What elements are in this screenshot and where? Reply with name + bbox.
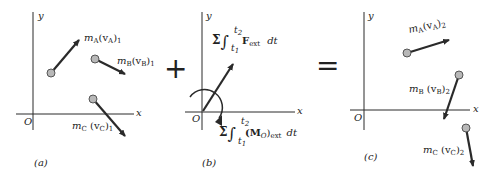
equals-operator: = xyxy=(316,52,339,80)
state-index: 2 xyxy=(460,149,464,157)
lower-limit: t1 xyxy=(238,137,246,148)
panel-c-momentum-A-arrow xyxy=(403,40,449,57)
upper-limit: t2 xyxy=(234,26,242,37)
panel-a-label-momentum-B: mB(vB)1 xyxy=(117,56,155,68)
moment-symbol: (M xyxy=(245,127,261,138)
panel-c-label-momentum-C: mC (vC)2 xyxy=(423,145,464,157)
panel-a-caption: (a) xyxy=(34,158,48,168)
panel-b-linear-impulse-label: Σ∫t2t1 Fext dt xyxy=(212,34,278,50)
panel-b-y-axis-label: y xyxy=(206,11,212,21)
dt-symbol: dt xyxy=(267,35,277,46)
dt-symbol: dt xyxy=(287,127,297,138)
panel-a-label-momentum-A: mA(vA)1 xyxy=(84,33,122,45)
lower-limit-sub: 1 xyxy=(242,140,246,148)
integral-symbol: ∫ xyxy=(220,32,228,51)
velocity-symbol: (v xyxy=(87,120,100,131)
upper-limit-sub: 2 xyxy=(238,29,242,37)
panel-b-angular-impulse-label: Σ∫t2t1 (MO)ext dt xyxy=(219,126,297,142)
panel-a-x-axis-label: x xyxy=(136,108,142,118)
velocity-symbol: (v xyxy=(99,32,109,43)
state-index: 1 xyxy=(109,125,113,133)
force-subscript: ext xyxy=(249,40,260,48)
velocity-symbol: (v xyxy=(438,144,451,155)
velocity-symbol: (v xyxy=(132,55,142,66)
panel-c-x-axis-label: x xyxy=(473,104,479,114)
lower-limit-sub: 1 xyxy=(235,47,239,55)
panel-a-momentum-A-arrow xyxy=(47,40,79,77)
velocity-symbol: (v xyxy=(424,83,437,94)
panel-b-x-axis-label: x xyxy=(297,106,303,116)
panel-b-linear-impulse-arrow xyxy=(203,64,233,111)
state-index: 2 xyxy=(445,88,449,96)
panel-b-origin-label: O xyxy=(192,114,200,124)
plus-operator: + xyxy=(164,55,187,83)
panel-a-label-momentum-C: mC (vC)1 xyxy=(72,121,113,133)
ext-subscript: ext xyxy=(270,132,281,140)
panel-b-caption: (b) xyxy=(202,158,216,168)
upper-limit: t2 xyxy=(241,117,249,128)
panel-c-y-axis-label: y xyxy=(368,11,374,21)
panel-a-y-axis-label: y xyxy=(38,11,44,21)
integral-symbol: ∫ xyxy=(227,124,235,143)
upper-limit-sub: 2 xyxy=(245,120,249,128)
state-index: 1 xyxy=(117,37,121,45)
panel-c-origin-label: O xyxy=(354,113,362,123)
panel-a-origin-label: O xyxy=(24,117,32,127)
panel-a-axes xyxy=(16,12,134,130)
lower-limit: t1 xyxy=(231,44,239,55)
panel-c-caption: (c) xyxy=(364,152,377,162)
state-index: 1 xyxy=(150,60,154,68)
panel-c-label-momentum-B: mB (vB)2 xyxy=(409,84,450,96)
